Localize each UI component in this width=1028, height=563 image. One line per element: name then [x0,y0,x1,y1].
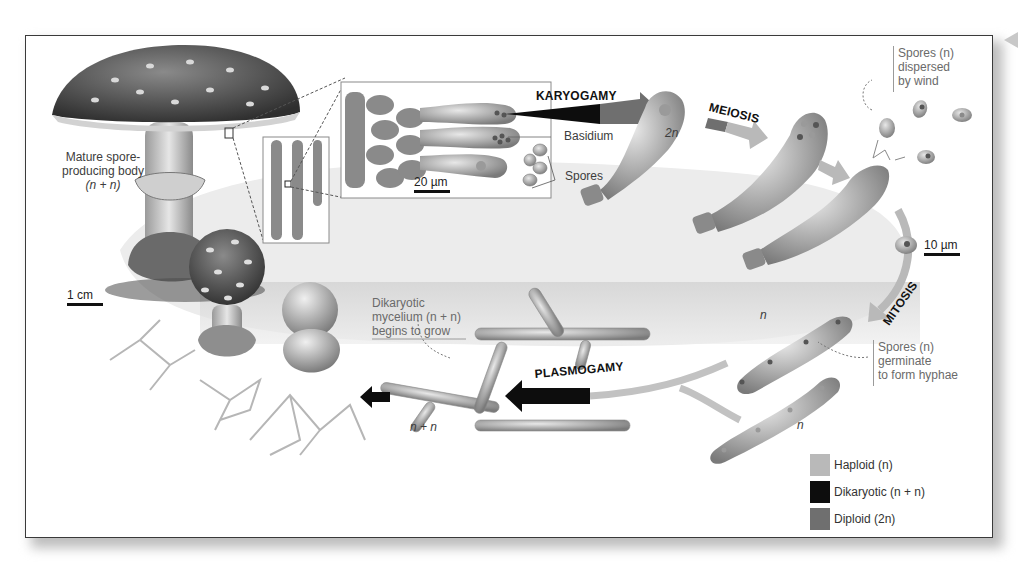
spores-label: Spores [565,169,603,183]
germinate-note-rule [873,340,874,386]
germinate-line3: to form hyphae [878,368,958,382]
dispersed-line1: Spores (n) [898,46,954,60]
basidium-label: Basidium [564,129,613,143]
young-mushroom [189,229,265,357]
legend-label-dikaryotic: Dikaryotic (n + n) [834,485,925,499]
legend-item-haploid: Haploid (n) [810,451,925,478]
legend-item-dikaryotic: Dikaryotic (n + n) [810,478,925,505]
legend-swatch-dikaryotic [810,481,830,503]
legend-item-diploid: Diploid (2n) [810,505,925,532]
spores-germinate-note: Spores (n) germinate to form hyphae [878,340,958,382]
haploid-n-upper-label: n [760,308,767,322]
legend-label-haploid: Haploid (n) [834,458,893,472]
dispersed-line2: dispersed [898,60,954,74]
dispersed-line3: by wind [898,74,954,88]
haploid-n-lower-label: n [797,418,804,432]
legend-swatch-diploid [810,508,830,530]
mature-body-line1: Mature spore- [57,150,149,164]
dispersed-note-rule [893,46,894,92]
diploid-2n-label: 2n [665,126,678,140]
spores-dispersed-note: Spores (n) dispersed by wind [898,46,954,88]
scale-bar-1cm: 1 cm [67,288,103,306]
legend: Haploid (n) Dikaryotic (n + n) Diploid (… [810,451,925,532]
meiosis-arrow [705,118,768,149]
germinate-line2: germinate [878,354,958,368]
dikaryotic-n-plus-n-label: n + n [410,420,437,434]
scale-1cm-label: 1 cm [67,288,93,302]
scale-1cm-bar [67,303,103,306]
plasmogamy-arrow [505,380,590,412]
mature-body-line3: (n + n) [57,178,149,192]
mycelium-line3: begins to grow [372,324,461,338]
scale-20um-bar [414,190,450,193]
scale-bar-20um: 20 µm [414,175,450,193]
germinate-line1: Spores (n) [878,340,958,354]
mature-body-line2: producing body [57,164,149,178]
mycelium-line2: mycelium (n + n) [372,310,461,324]
mature-body-label: Mature spore- producing body (n + n) [57,150,149,192]
scale-20um-label: 20 µm [414,175,448,189]
legend-swatch-haploid [810,454,830,476]
scale-10um-label: 10 µm [924,238,958,252]
scale-bar-10um: 10 µm [924,238,960,256]
mycelium-line1: Dikaryotic [372,296,461,310]
legend-label-diploid: Diploid (2n) [834,512,895,526]
button-mushroom [282,282,340,373]
basidium-progress-arrow [818,160,850,185]
dikaryotic-mycelium-note: Dikaryotic mycelium (n + n) begins to gr… [372,296,461,338]
stage-karyogamy: KARYOGAMY [536,89,617,103]
scale-10um-bar [924,253,960,256]
